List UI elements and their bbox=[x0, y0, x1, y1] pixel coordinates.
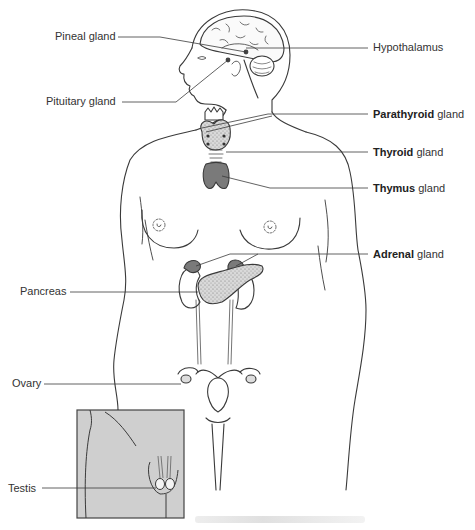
label-parathyroid-bold: Parathyroid bbox=[373, 108, 434, 120]
label-parathyroid: Parathyroid gland bbox=[373, 108, 464, 121]
label-adrenal: Adrenal gland bbox=[373, 248, 444, 261]
label-hypothalamus-text: Hypothalamus bbox=[373, 41, 443, 53]
torso-left bbox=[114, 130, 196, 410]
label-adrenal-bold: Adrenal bbox=[373, 248, 414, 260]
testis-right bbox=[166, 479, 175, 490]
breast-right bbox=[240, 218, 300, 249]
figure-caption-illegible bbox=[195, 516, 365, 523]
label-parathyroid-text: gland bbox=[434, 108, 464, 120]
thyroid-gland bbox=[201, 120, 230, 150]
ovary-right bbox=[246, 375, 256, 383]
label-pineal: Pineal gland bbox=[55, 30, 116, 43]
label-testis: Testis bbox=[8, 482, 36, 495]
label-pituitary: Pituitary gland bbox=[46, 95, 116, 108]
brain bbox=[200, 16, 284, 62]
cerebellum bbox=[250, 56, 274, 76]
ovary-left bbox=[181, 375, 191, 383]
label-pancreas: Pancreas bbox=[20, 285, 66, 298]
label-hypothalamus: Hypothalamus bbox=[373, 41, 443, 54]
breast-left bbox=[142, 210, 198, 248]
label-thyroid-text: gland bbox=[413, 146, 443, 158]
thymus-gland bbox=[203, 163, 229, 189]
label-thyroid: Thyroid gland bbox=[373, 146, 443, 159]
label-thymus-text: gland bbox=[415, 182, 445, 194]
uterus bbox=[196, 370, 242, 412]
label-ovary: Ovary bbox=[12, 377, 41, 390]
label-adrenal-text: gland bbox=[414, 248, 444, 260]
label-thymus: Thymus gland bbox=[373, 182, 445, 195]
torso-right bbox=[306, 132, 366, 490]
face-profile bbox=[179, 48, 226, 110]
testis-left bbox=[156, 479, 165, 490]
male-inset bbox=[77, 410, 184, 518]
label-thyroid-bold: Thyroid bbox=[373, 146, 413, 158]
kidney-left bbox=[179, 268, 200, 308]
endocrine-body-illustration bbox=[0, 0, 475, 530]
label-thymus-bold: Thymus bbox=[373, 182, 415, 194]
